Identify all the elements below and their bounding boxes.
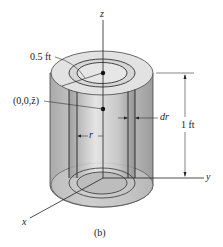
- top-center-point: [101, 71, 105, 75]
- z-axis-label: z: [100, 9, 104, 19]
- shell-radius-label: r: [89, 130, 93, 140]
- y-axis-label: y: [206, 172, 210, 182]
- shell-thickness-label: dr: [160, 112, 169, 122]
- height-label: 1 ft: [181, 120, 195, 130]
- x-axis-label: x: [22, 217, 26, 227]
- centroid-label: (0,0,z̄): [13, 96, 39, 106]
- cylinder-shell-diagram: z y x 0.5 ft (0,0,z̄) dr r 1 ft (b): [0, 0, 223, 247]
- radius-label: 0.5 ft: [30, 52, 51, 62]
- figure-caption: (b): [94, 228, 106, 238]
